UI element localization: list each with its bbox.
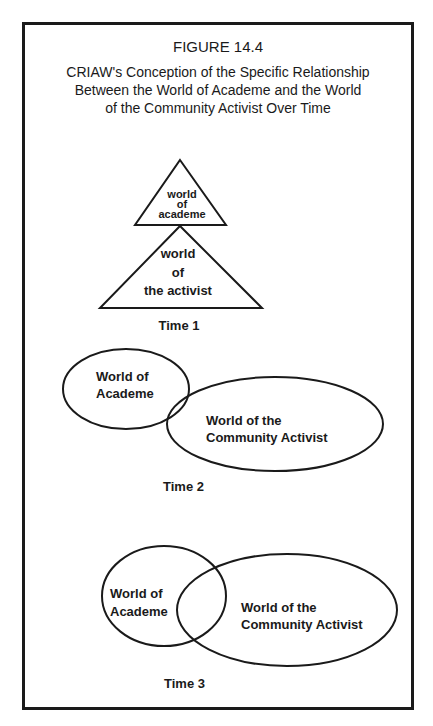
time3-label: Time 3	[164, 676, 205, 691]
activist-label-2: Community Activist	[206, 430, 328, 445]
time2-label: Time 2	[163, 479, 204, 494]
activist-label-3: the activist	[144, 283, 213, 298]
academe-label-1: World of	[96, 369, 149, 384]
activist-label-2: Community Activist	[241, 617, 363, 632]
academe-label-1: World of	[110, 586, 163, 601]
time3-group: World of Academe World of the Community …	[102, 546, 397, 691]
time2-group: World of Academe World of the Community …	[63, 349, 383, 494]
activist-label-1: world	[160, 246, 196, 261]
academe-label-3: academe	[158, 208, 205, 220]
activist-label-2: of	[172, 265, 185, 280]
academe-label-2: Academe	[110, 604, 168, 619]
relationship-diagram: world of academe world of the activist T…	[0, 0, 433, 726]
activist-label-1: World of the	[241, 600, 317, 615]
time1-label: Time 1	[159, 318, 200, 333]
time1-group: world of academe world of the activist T…	[100, 160, 262, 333]
activist-label-1: World of the	[206, 413, 282, 428]
academe-label-2: Academe	[96, 386, 154, 401]
